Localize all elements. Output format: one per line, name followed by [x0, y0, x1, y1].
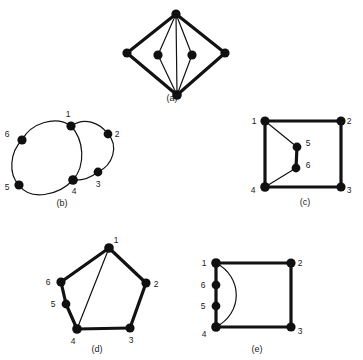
vertex-label-d-3: 3 [129, 335, 134, 345]
vertex-e-6 [212, 281, 221, 290]
subfigure-c-edges [265, 121, 341, 187]
vertex-label-b-6: 6 [5, 129, 10, 139]
edge-b-1-2 [71, 121, 108, 134]
subfigure-b: 1 2 3 4 5 6 (b) [5, 109, 120, 208]
vertex-label-c-5: 5 [306, 138, 311, 148]
subfigure-c: 1 2 3 4 5 6 (c) [251, 116, 352, 207]
edge-b-2-3 [98, 134, 114, 172]
vertex-right-apex [220, 48, 229, 57]
vertex-label-e-3: 3 [298, 326, 303, 336]
edge-d-3-4 [77, 328, 130, 329]
subfigure-a-edges [127, 14, 225, 95]
vertex-label-c-3: 3 [347, 185, 352, 195]
edge-top-bottom [176, 14, 177, 95]
vertex-c-2 [336, 116, 345, 125]
edge-b-1-6 [22, 121, 71, 140]
edge-c-6-4 [265, 168, 296, 187]
vertex-label-c-6: 6 [306, 160, 311, 170]
vertex-label-d-5: 5 [51, 299, 56, 309]
vertex-b-3 [94, 168, 103, 177]
vertex-label-d-1: 1 [114, 235, 119, 245]
vertex-e-5 [212, 302, 221, 311]
graph-figure-canvas: (a) 1 2 3 4 5 6 (b) [0, 0, 363, 360]
edge-b-6-5 [12, 140, 22, 185]
vertex-d-2 [141, 278, 150, 287]
vertex-c-3 [336, 182, 345, 191]
subfigure-d-edges [61, 248, 146, 329]
vertex-label-b-5: 5 [5, 182, 10, 192]
vertex-e-2 [286, 258, 295, 267]
subfigure-e-vertices [211, 258, 295, 332]
subfigure-d: 1 2 3 4 5 6 (d) [46, 235, 159, 354]
vertex-label-d-2: 2 [154, 279, 159, 289]
subfigure-e-edges [216, 263, 291, 327]
edge-top-left [127, 14, 176, 53]
vertex-c-5 [293, 143, 302, 152]
vertex-label-e-5: 5 [201, 301, 206, 311]
edge-d-1-2 [109, 248, 146, 283]
vertex-d-3 [125, 323, 134, 332]
vertex-e-3 [286, 322, 295, 331]
vertex-b-2 [104, 130, 113, 139]
vertex-e-4 [211, 322, 221, 332]
vertex-label-e-4: 4 [202, 329, 207, 339]
vertex-top-apex [171, 9, 180, 18]
vertex-b-5 [14, 180, 23, 189]
vertex-label-e-2: 2 [298, 258, 303, 268]
vertex-b-4 [68, 175, 78, 185]
edge-d-2-3 [130, 283, 146, 328]
vertex-label-b-2: 2 [115, 129, 120, 139]
vertex-b-1 [66, 121, 75, 130]
vertex-label-b-1: 1 [66, 109, 71, 119]
vertex-c-6 [292, 164, 301, 173]
vertex-d-5 [62, 300, 71, 309]
vertex-left-apex [122, 48, 131, 57]
vertex-c-1 [260, 116, 269, 125]
vertex-d-4 [72, 324, 82, 334]
vertex-label-d-6: 6 [46, 277, 51, 287]
edge-b-5-4 [19, 180, 73, 195]
subfigure-a: (a) [122, 9, 229, 103]
vertex-inner-right [187, 50, 196, 59]
vertex-b-6 [17, 135, 26, 144]
edge-right-bottom [177, 53, 225, 95]
edge-b-4-1 [71, 126, 82, 180]
subfigure-caption-c: (c) [300, 197, 311, 207]
vertex-label-c-4: 4 [251, 185, 256, 195]
vertex-d-1 [104, 243, 114, 253]
vertex-label-d-4: 4 [71, 336, 76, 346]
subfigure-e: 1 2 3 4 5 6 (e) [201, 258, 303, 354]
vertex-inner-left [153, 50, 162, 59]
subfigure-caption-e: (e) [252, 344, 263, 354]
subfigure-caption-b: (b) [57, 198, 68, 208]
vertex-label-c-1: 1 [252, 116, 257, 126]
vertex-label-b-4: 4 [72, 186, 77, 196]
vertex-label-e-6: 6 [201, 280, 206, 290]
edge-c-1-5 [265, 121, 297, 147]
vertex-label-e-1: 1 [202, 258, 207, 268]
vertex-c-4 [260, 182, 270, 192]
vertex-e-1 [211, 258, 221, 268]
vertex-label-b-3: 3 [96, 179, 101, 189]
vertex-label-c-2: 2 [347, 116, 352, 126]
subfigure-d-vertices [56, 243, 150, 334]
edge-e-1-4-arc [216, 263, 236, 327]
vertex-d-6 [56, 277, 65, 286]
subfigure-caption-d: (d) [92, 344, 103, 354]
subfigure-caption-a: (a) [167, 93, 178, 103]
edge-left-bottom [127, 53, 177, 95]
